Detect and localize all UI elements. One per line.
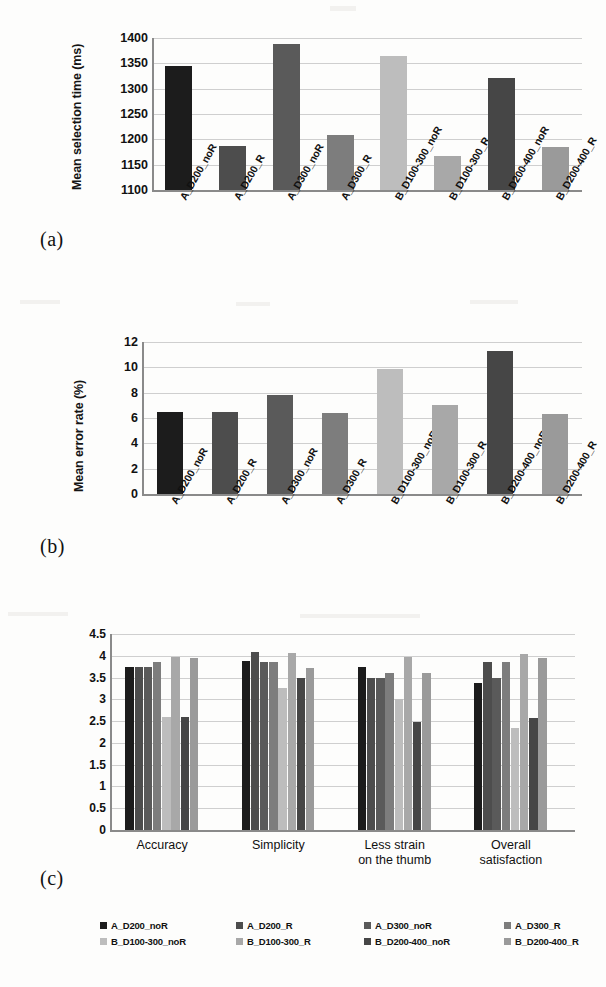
bar [538,658,546,830]
y-axis-tick-label: 1350 [120,56,148,70]
grid-line [152,38,582,39]
bar [376,678,384,830]
grid-line [152,63,582,64]
bar [242,661,250,830]
y-axis-line [110,634,112,830]
legend-swatch-icon [364,922,371,929]
bar [404,657,412,830]
bar [190,658,198,830]
grid-line [142,393,582,394]
legend-item: A_D300_R [504,920,606,931]
legend-item: B_D200-400_noR [364,936,504,947]
bar [380,56,407,190]
bar [502,662,510,830]
y-axis-tick-label: 2 [131,462,138,476]
y-axis-tick-label: 0 [131,487,138,501]
grid-line [152,139,582,140]
legend-label: B_D200-400_noR [375,936,450,947]
x-axis-group-label: Overall satisfaction [451,838,571,868]
chart-a-mean-selection-time: (a) Mean selection time (ms) 11001150120… [0,0,606,310]
y-axis-tick-label: 1250 [120,107,148,121]
legend-label: A_D200_noR [111,920,168,931]
bar [395,699,403,830]
panel-label-b: (b) [40,535,65,558]
legend-swatch-icon [236,938,243,945]
y-axis-tick-label: 1.5 [89,758,106,772]
bar [367,678,375,830]
chart-b-plot-area: 024681012A_D200_noRA_D200_RA_D300_noRA_D… [142,342,582,494]
grid-line [142,367,582,368]
bar [529,718,537,830]
legend-swatch-icon [364,938,371,945]
chart-a-y-axis-title: Mean selection time (ms) [70,44,84,190]
bar [135,667,143,830]
bar [474,683,482,830]
grid-line [110,656,575,657]
grid-line [142,494,582,496]
bar [165,66,192,190]
x-axis-group-label: Less strain on the thumb [335,838,455,868]
y-axis-line [152,38,154,190]
bar [511,728,519,830]
bar [306,668,314,830]
bar [385,673,393,830]
chart-c-subjective-ratings: (c) 00.511.522.533.544.5AccuracySimplici… [0,612,606,987]
y-axis-tick-label: 1300 [120,82,148,96]
y-axis-tick-label: 10 [124,360,138,374]
legend-swatch-icon [504,938,511,945]
chart-b-y-axis-title: Mean error rate (%) [72,380,86,492]
bar [487,351,513,494]
legend-label: A_D200_R [247,920,292,931]
grid-line [142,342,582,343]
panel-label-c: (c) [40,867,64,890]
bar [422,673,430,830]
bar [377,369,403,494]
grid-line [152,89,582,90]
bar [162,717,170,830]
chart-c-legend: A_D200_noRA_D200_RA_D300_noRA_D300_RB_D1… [100,917,600,949]
bar [171,657,179,830]
y-axis-tick-label: 3 [99,692,106,706]
legend-label: A_D300_noR [375,920,432,931]
bar [483,662,491,830]
x-axis-group-label: Simplicity [218,838,338,853]
legend-label: B_D200-400_R [515,936,579,947]
legend-swatch-icon [100,922,107,929]
y-axis-tick-label: 4.5 [89,627,106,641]
legend-item: B_D100-300_R [236,936,364,947]
chart-c-plot-area: 00.511.522.533.544.5AccuracySimplicityLe… [110,634,575,830]
bar [358,667,366,830]
y-axis-tick-label: 1150 [121,158,148,172]
bar [153,662,161,830]
bar [520,654,528,830]
y-axis-tick-label: 1100 [121,183,148,197]
y-axis-tick-label: 1200 [120,132,148,146]
legend-swatch-icon [236,922,243,929]
y-axis-tick-label: 0 [99,823,106,837]
grid-line [142,443,582,444]
legend-label: A_D300_R [515,920,560,931]
bar [273,44,300,190]
legend-item: B_D100-300_noR [100,936,236,947]
bar [288,653,296,830]
legend-item: A_D200_R [236,920,364,931]
y-axis-tick-label: 1 [99,779,106,793]
legend-swatch-icon [100,938,107,945]
y-axis-tick-label: 12 [124,335,138,349]
legend-item: A_D300_noR [364,920,504,931]
y-axis-tick-label: 0.5 [89,801,106,815]
legend-label: B_D100-300_R [247,936,311,947]
grid-line [110,634,575,635]
bar [260,662,268,830]
grid-line [152,190,582,192]
bar [269,662,277,830]
legend-label: B_D100-300_noR [111,936,186,947]
y-axis-tick-label: 4 [99,649,106,663]
y-axis-tick-label: 8 [131,386,138,400]
x-axis-group-label: Accuracy [102,838,222,853]
bar [125,667,133,830]
grid-line [142,418,582,419]
grid-line [110,830,575,832]
bar [278,688,286,830]
y-axis-tick-label: 6 [131,411,138,425]
